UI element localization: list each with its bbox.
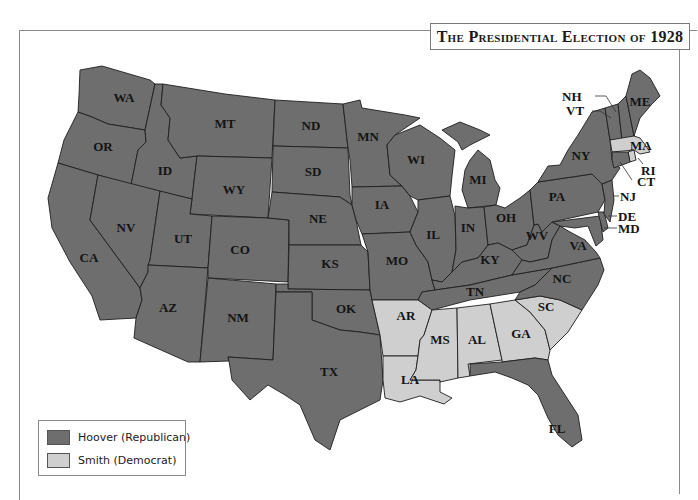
svg-text:GA: GA <box>511 326 531 341</box>
svg-text:MN: MN <box>357 129 379 144</box>
svg-text:PA: PA <box>549 189 566 204</box>
svg-text:NE: NE <box>309 211 327 226</box>
legend-swatch-smith <box>47 453 70 468</box>
svg-text:MI: MI <box>469 172 486 187</box>
legend-swatch-hoover <box>47 430 70 445</box>
svg-text:WI: WI <box>407 152 425 167</box>
svg-text:ND: ND <box>302 118 321 133</box>
svg-text:LA: LA <box>401 372 420 387</box>
svg-text:KY: KY <box>480 252 500 267</box>
svg-text:MT: MT <box>215 116 236 131</box>
svg-text:OR: OR <box>93 139 113 154</box>
state-CT[interactable] <box>612 152 630 168</box>
svg-text:UT: UT <box>174 231 192 246</box>
svg-text:NJ: NJ <box>620 189 636 204</box>
svg-text:AZ: AZ <box>159 300 177 315</box>
svg-text:SC: SC <box>538 299 555 314</box>
svg-text:NV: NV <box>117 220 136 235</box>
svg-text:NM: NM <box>227 310 249 325</box>
legend-item-smith: Smith (Democrat) <box>47 453 176 468</box>
svg-text:FL: FL <box>549 421 566 436</box>
svg-text:TN: TN <box>466 284 485 299</box>
svg-text:MD: MD <box>618 221 640 236</box>
svg-text:KS: KS <box>321 256 338 271</box>
svg-text:CA: CA <box>80 250 99 265</box>
legend-item-hoover: Hoover (Republican) <box>47 430 190 445</box>
svg-text:WA: WA <box>114 90 136 105</box>
svg-text:CO: CO <box>230 242 250 257</box>
legend: Hoover (Republican) Smith (Democrat) <box>38 420 186 476</box>
svg-text:NH: NH <box>562 89 582 104</box>
svg-text:NC: NC <box>553 271 572 286</box>
svg-text:AR: AR <box>397 308 416 323</box>
svg-text:WV: WV <box>526 228 549 243</box>
svg-text:SD: SD <box>305 164 322 179</box>
legend-label-smith: Smith (Democrat) <box>78 454 176 467</box>
svg-text:ME: ME <box>630 94 651 109</box>
legend-label-hoover: Hoover (Republican) <box>78 431 190 444</box>
svg-text:ID: ID <box>158 163 172 178</box>
svg-text:MA: MA <box>630 138 652 153</box>
svg-text:MS: MS <box>430 332 450 347</box>
svg-text:VT: VT <box>566 103 584 118</box>
svg-text:IA: IA <box>375 197 390 212</box>
svg-text:OH: OH <box>496 210 516 225</box>
map-title: The Presidential Election of 1928 <box>437 28 684 46</box>
map-title-box: The Presidential Election of 1928 <box>430 23 690 50</box>
svg-text:OK: OK <box>336 301 357 316</box>
svg-text:IN: IN <box>461 220 476 235</box>
svg-text:MO: MO <box>386 253 408 268</box>
svg-text:WY: WY <box>223 182 246 197</box>
svg-text:VA: VA <box>569 238 587 253</box>
svg-text:CT: CT <box>637 174 655 189</box>
svg-text:IL: IL <box>426 227 440 242</box>
svg-text:NY: NY <box>572 148 591 163</box>
svg-text:AL: AL <box>468 332 486 347</box>
svg-text:TX: TX <box>320 364 339 379</box>
